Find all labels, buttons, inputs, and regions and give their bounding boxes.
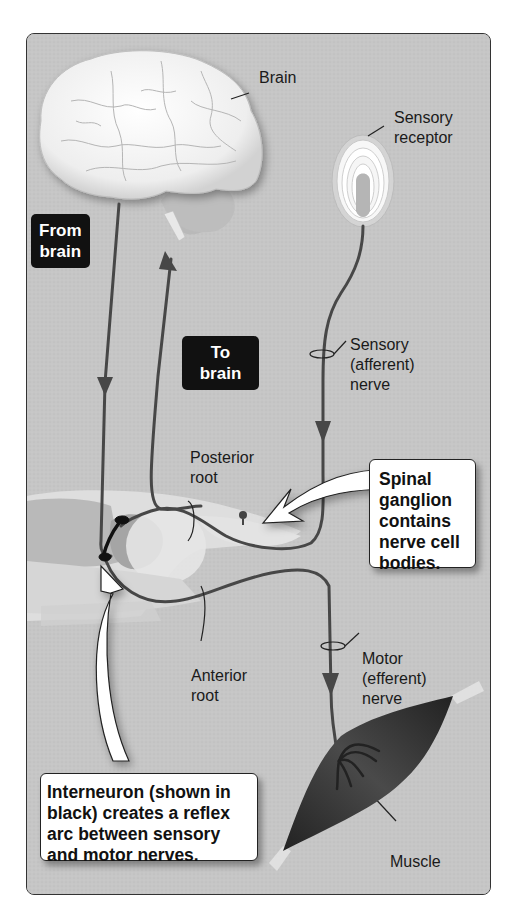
label-motor-nerve: Motor (efferent) nerve xyxy=(362,649,427,709)
to-brain-badge: To brain xyxy=(182,336,259,390)
label-anterior-root: Anterior root xyxy=(191,666,247,706)
spinal-ganglion-callout: Spinal ganglion contains nerve cell bodi… xyxy=(369,459,476,568)
sensory-receptor-illustration xyxy=(332,135,394,227)
label-posterior-root: Posterior root xyxy=(190,448,254,488)
label-brain: Brain xyxy=(259,68,296,88)
label-sensory-receptor: Sensory receptor xyxy=(394,108,453,148)
diagram-panel: Brain Sensory receptor From brain To bra… xyxy=(26,33,491,895)
from-brain-badge: From brain xyxy=(31,214,90,268)
label-sensory-nerve: Sensory (afferent) nerve xyxy=(350,335,415,395)
label-muscle: Muscle xyxy=(390,852,441,872)
interneuron-callout: Interneuron (shown in black) creates a r… xyxy=(40,773,258,861)
